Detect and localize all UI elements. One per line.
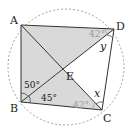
angle-label-adb: 42° <box>89 29 105 39</box>
geometry-diagram: A B C D E 50° 45° 42° 42° x y <box>0 0 129 129</box>
angle-label-ebc: 45° <box>41 93 57 103</box>
angle-label-abe: 50° <box>24 80 40 90</box>
label-c: C <box>103 112 111 125</box>
angle-label-x: x <box>94 87 101 100</box>
label-a: A <box>9 14 19 27</box>
angle-label-bca: 42° <box>73 100 89 110</box>
label-e: E <box>66 70 74 83</box>
angle-label-y: y <box>99 40 107 53</box>
angle-arc-x <box>96 102 103 104</box>
angle-arc-y <box>107 35 112 37</box>
label-d: D <box>116 20 125 33</box>
label-b: B <box>10 102 18 115</box>
